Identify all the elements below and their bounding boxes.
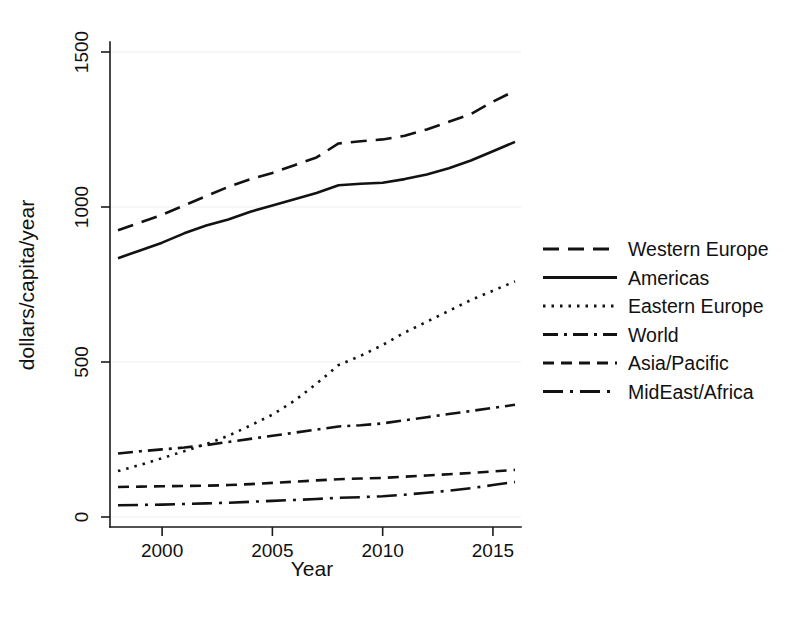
- y-axis-ticks: 050010001500: [71, 31, 110, 522]
- series-line-western-europe: [118, 91, 515, 231]
- legend-label: MidEast/Africa: [628, 381, 754, 403]
- gridlines: [110, 52, 521, 517]
- legend-label: Americas: [628, 267, 710, 289]
- y-tick-label: 500: [71, 346, 92, 378]
- series-line-world: [118, 405, 515, 454]
- x-tick-label: 2005: [251, 540, 293, 561]
- legend-label: World: [628, 324, 679, 346]
- x-tick-label: 2000: [141, 540, 183, 561]
- line-chart: 050010001500 2000200520102015 dollars/ca…: [0, 0, 812, 631]
- x-tick-label: 2015: [472, 540, 514, 561]
- data-series-group: [118, 91, 515, 505]
- y-axis-title: dollars/capita/year: [15, 200, 38, 370]
- series-line-eastern-europe: [118, 281, 515, 471]
- y-tick-label: 1500: [71, 31, 92, 73]
- x-axis-title: Year: [291, 557, 333, 580]
- legend-label: Eastern Europe: [628, 295, 764, 317]
- legend-label: Asia/Pacific: [628, 352, 729, 374]
- series-line-asia-pacific: [118, 470, 515, 487]
- legend-label: Western Europe: [628, 238, 769, 260]
- chart-legend: Western EuropeAmericasEastern EuropeWorl…: [543, 238, 769, 403]
- x-tick-label: 2010: [362, 540, 404, 561]
- series-line-americas: [118, 142, 515, 258]
- x-axis-ticks: 2000200520102015: [141, 527, 514, 561]
- chart-figure: 050010001500 2000200520102015 dollars/ca…: [0, 0, 812, 631]
- y-tick-label: 1000: [71, 186, 92, 228]
- y-tick-label: 0: [71, 512, 92, 523]
- axes: [110, 42, 521, 527]
